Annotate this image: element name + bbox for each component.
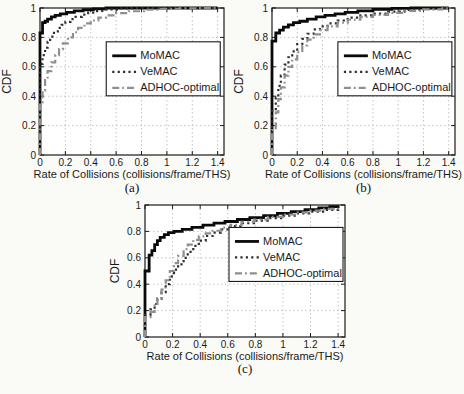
subplot-b: 00.20.40.60.811.21.400.20.40.60.81Rate o…: [232, 0, 464, 197]
svg-text:ADHOC-optimal: ADHOC-optimal: [263, 267, 342, 279]
subplot-c-caption: (c): [108, 361, 356, 377]
svg-text:1: 1: [30, 3, 36, 14]
svg-text:0.6: 0.6: [221, 339, 235, 350]
svg-text:1.2: 1.2: [304, 339, 318, 350]
svg-text:0.8: 0.8: [135, 157, 149, 168]
subplot-a-canvas: 00.20.40.60.811.21.400.20.40.60.81Rate o…: [0, 0, 232, 181]
svg-text:MoMAC: MoMAC: [263, 235, 303, 247]
svg-text:0.8: 0.8: [127, 226, 141, 237]
svg-text:CDF: CDF: [232, 69, 246, 94]
svg-text:0.4: 0.4: [127, 279, 141, 290]
subplot-c-canvas: 00.20.40.60.811.21.400.20.40.60.81Rate o…: [108, 197, 356, 363]
svg-text:1: 1: [164, 157, 170, 168]
svg-text:0.6: 0.6: [341, 157, 355, 168]
svg-text:ADHOC-optimal: ADHOC-optimal: [140, 81, 219, 93]
subplot-b-canvas: 00.20.40.60.811.21.400.20.40.60.81Rate o…: [232, 0, 464, 181]
svg-text:0.2: 0.2: [166, 339, 180, 350]
svg-text:0: 0: [142, 339, 148, 350]
svg-text:0: 0: [262, 150, 268, 161]
svg-text:0.4: 0.4: [254, 91, 268, 102]
svg-text:CDF: CDF: [108, 259, 122, 284]
svg-text:0.2: 0.2: [22, 120, 36, 131]
svg-text:1: 1: [280, 339, 286, 350]
svg-text:0.2: 0.2: [58, 157, 72, 168]
svg-text:VeMAC: VeMAC: [263, 251, 300, 263]
svg-text:ADHOC-optimal: ADHOC-optimal: [372, 81, 451, 93]
svg-text:1.4: 1.4: [211, 157, 225, 168]
svg-text:MoMAC: MoMAC: [140, 49, 180, 61]
svg-text:Rate of Collisions (collisions: Rate of Collisions (collisions/frame/THS…: [265, 168, 462, 180]
svg-text:0.6: 0.6: [22, 61, 36, 72]
svg-text:0.2: 0.2: [290, 157, 304, 168]
svg-text:0.4: 0.4: [84, 157, 98, 168]
svg-text:1: 1: [135, 200, 141, 211]
svg-text:0.6: 0.6: [127, 252, 141, 263]
svg-text:0.4: 0.4: [22, 91, 36, 102]
svg-text:0.8: 0.8: [254, 32, 268, 43]
svg-text:0.8: 0.8: [248, 339, 262, 350]
svg-text:1.2: 1.2: [416, 157, 430, 168]
svg-text:1.2: 1.2: [185, 157, 199, 168]
svg-text:1: 1: [262, 3, 268, 14]
svg-text:VeMAC: VeMAC: [372, 65, 409, 77]
svg-text:0.8: 0.8: [22, 32, 36, 43]
svg-text:0.6: 0.6: [109, 157, 123, 168]
svg-text:1.4: 1.4: [331, 339, 345, 350]
svg-text:0: 0: [269, 157, 275, 168]
svg-text:0.8: 0.8: [366, 157, 380, 168]
svg-text:Rate of Collisions (collisions: Rate of Collisions (collisions/frame/THS…: [34, 168, 231, 180]
svg-text:1: 1: [395, 157, 401, 168]
svg-text:0.4: 0.4: [316, 157, 330, 168]
subplot-c: 00.20.40.60.811.21.400.20.40.60.81Rate o…: [108, 197, 356, 394]
svg-text:CDF: CDF: [0, 69, 14, 94]
svg-text:0.2: 0.2: [254, 120, 268, 131]
svg-text:0.2: 0.2: [127, 305, 141, 316]
svg-text:0: 0: [135, 332, 141, 343]
subplot-b-caption: (b): [232, 180, 464, 196]
figure: 00.20.40.60.811.21.400.20.40.60.81Rate o…: [0, 0, 464, 394]
svg-text:1.4: 1.4: [442, 157, 456, 168]
svg-text:0.6: 0.6: [254, 61, 268, 72]
subplot-a-caption: (a): [0, 180, 232, 196]
subplot-a: 00.20.40.60.811.21.400.20.40.60.81Rate o…: [0, 0, 232, 197]
svg-text:0.4: 0.4: [193, 339, 207, 350]
svg-text:MoMAC: MoMAC: [372, 49, 412, 61]
svg-text:0: 0: [37, 157, 43, 168]
svg-text:VeMAC: VeMAC: [140, 65, 177, 77]
svg-text:0: 0: [30, 150, 36, 161]
